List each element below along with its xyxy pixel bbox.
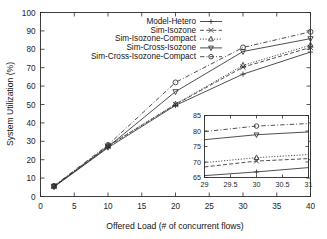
data-point-marker-plus bbox=[308, 49, 313, 54]
y-tick-label: 80 bbox=[26, 45, 36, 54]
y-tick-label: 10 bbox=[26, 174, 36, 183]
y-tick-label: 50 bbox=[26, 101, 36, 110]
inset-x-tick-label: 30 bbox=[253, 180, 261, 189]
y-tick-label: 100 bbox=[22, 9, 36, 18]
inset-plot: 65707580852929.53030.531 bbox=[193, 111, 313, 188]
x-tick-label: 15 bbox=[137, 202, 147, 211]
data-point-marker-circle bbox=[173, 80, 178, 85]
data-point-marker-plus bbox=[209, 19, 214, 24]
inset-x-tick-label: 29.5 bbox=[224, 180, 238, 189]
inset-y-tick-label: 80 bbox=[193, 127, 201, 136]
data-point-marker-triangle-down bbox=[209, 46, 214, 51]
chart-figure: 0102030405060708090100 0510152025303540 … bbox=[0, 0, 327, 239]
legend-label-0: Model-Hetero bbox=[146, 17, 196, 26]
legend-label-2: Sim-Isozone-Compact bbox=[115, 34, 197, 43]
chart-legend: Model-HeteroSim-IsozoneSim-Isozone-Compa… bbox=[91, 17, 222, 61]
legend-label-3: Sim-Cross-Isozone bbox=[126, 43, 196, 52]
inset-y-tick-label: 85 bbox=[193, 111, 201, 120]
inset-x-tick-label: 31 bbox=[305, 180, 313, 189]
y-tick-label: 30 bbox=[26, 137, 36, 146]
y-tick-label: 90 bbox=[26, 27, 36, 36]
inset-y-tick-label: 70 bbox=[193, 158, 201, 167]
y-tick-label: 0 bbox=[31, 193, 36, 202]
inset-frame bbox=[205, 116, 309, 178]
x-tick-label: 35 bbox=[272, 202, 282, 211]
inset-x-tick-label: 29 bbox=[201, 180, 209, 189]
inset-y-tick-label: 75 bbox=[193, 142, 201, 151]
x-tick-label: 40 bbox=[306, 202, 316, 211]
y-tick-label: 40 bbox=[26, 119, 36, 128]
x-tick-label: 30 bbox=[238, 202, 248, 211]
x-tick-label: 20 bbox=[171, 202, 181, 211]
y-tick-label: 70 bbox=[26, 64, 36, 73]
y-axis-title: System Utilization (%) bbox=[5, 62, 15, 146]
x-tick-label: 5 bbox=[72, 202, 77, 211]
inset-x-tick-label: 30.5 bbox=[276, 180, 290, 189]
legend-label-4: Sim-Cross-Isozone-Compact bbox=[91, 52, 197, 61]
x-axis-title: Offered Load (# of concurrent flows) bbox=[106, 221, 244, 231]
legend-label-1: Sim-Isozone bbox=[150, 26, 196, 35]
chart-canvas: 0102030405060708090100 0510152025303540 … bbox=[0, 0, 327, 239]
x-tick-label: 25 bbox=[205, 202, 215, 211]
data-point-marker-triangle-up bbox=[209, 36, 214, 41]
y-tick-label: 60 bbox=[26, 82, 36, 91]
data-point-marker-plus bbox=[240, 72, 245, 77]
y-tick-label: 20 bbox=[26, 156, 36, 165]
x-tick-label: 0 bbox=[38, 202, 43, 211]
x-tick-label: 10 bbox=[103, 202, 113, 211]
